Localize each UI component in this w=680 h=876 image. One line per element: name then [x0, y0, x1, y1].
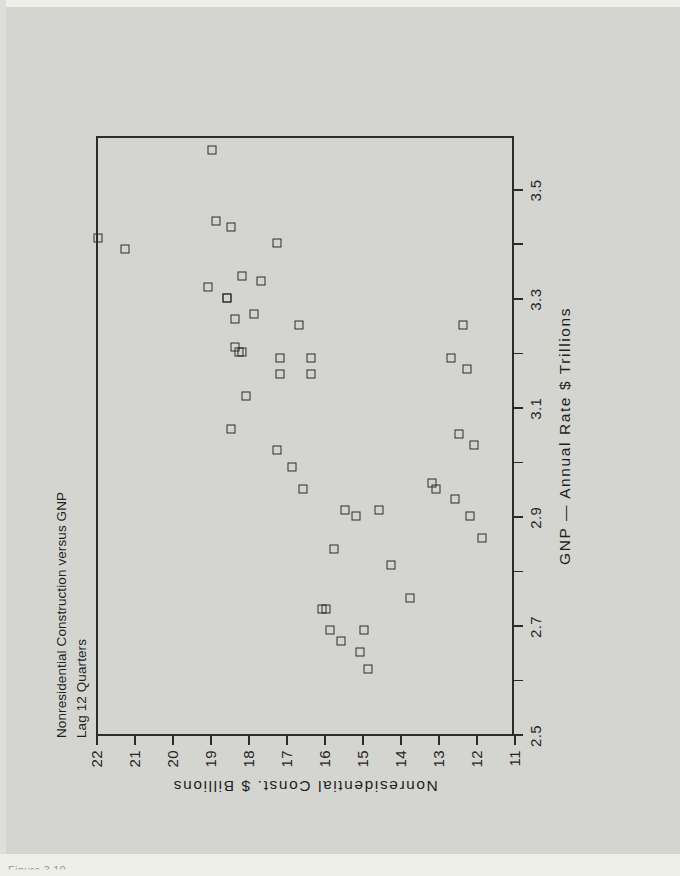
- x-tick: [514, 571, 523, 573]
- y-tick-label: 19: [202, 750, 219, 776]
- x-tick: [514, 244, 523, 246]
- data-point-marker: [249, 310, 258, 319]
- x-tick: [514, 462, 523, 464]
- data-point-marker: [466, 511, 475, 520]
- data-point-marker: [458, 320, 467, 329]
- data-point-marker: [470, 440, 479, 449]
- x-tick-label: 2.5: [527, 725, 544, 747]
- y-tick: [476, 736, 478, 745]
- scanned-figure-page: Nonresidential Construction versus GNP L…: [0, 0, 680, 876]
- x-tick: [514, 189, 523, 191]
- data-point-marker: [341, 506, 350, 515]
- data-point-marker: [230, 315, 239, 324]
- y-tick-label: 12: [468, 750, 485, 776]
- y-tick: [248, 736, 250, 745]
- x-tick: [514, 680, 523, 682]
- y-tick-label: 22: [88, 750, 105, 776]
- data-point-marker: [276, 353, 285, 362]
- x-tick-label: 3.3: [527, 289, 544, 311]
- data-point-marker: [455, 430, 464, 439]
- y-tick: [400, 736, 402, 745]
- chart-title: Nonresidential Construction versus GNP: [54, 492, 69, 738]
- y-tick-label: 20: [164, 750, 181, 776]
- data-point-marker: [432, 484, 441, 493]
- data-point-marker: [242, 391, 251, 400]
- data-point-marker: [287, 462, 296, 471]
- x-tick: [514, 298, 523, 300]
- data-point-marker: [257, 277, 266, 286]
- x-tick: [514, 625, 523, 627]
- x-tick-label: 3.5: [527, 180, 544, 202]
- data-point-marker: [363, 664, 372, 673]
- data-point-marker: [227, 222, 236, 231]
- data-point-marker: [120, 244, 129, 253]
- chart-subtitle: Lag 12 Quarters: [74, 639, 89, 738]
- x-tick: [514, 516, 523, 518]
- data-point-marker: [360, 626, 369, 635]
- data-point-marker: [375, 506, 384, 515]
- data-point-marker: [272, 446, 281, 455]
- data-point-marker: [211, 217, 220, 226]
- x-tick-label: 2.9: [527, 507, 544, 529]
- data-point-marker: [238, 271, 247, 280]
- data-point-marker: [208, 146, 217, 155]
- y-tick-label: 15: [354, 750, 371, 776]
- x-tick: [514, 407, 523, 409]
- y-tick-label: 21: [126, 750, 143, 776]
- x-axis-title: GNP — Annual Rate $ Trillions: [556, 136, 574, 736]
- data-point-marker: [295, 320, 304, 329]
- plot-area: [96, 136, 514, 736]
- data-point-marker: [238, 348, 247, 357]
- data-point-marker: [356, 648, 365, 657]
- y-tick-label: 11: [506, 750, 523, 776]
- data-point-marker: [223, 293, 232, 302]
- y-tick: [286, 736, 288, 745]
- x-tick: [514, 353, 523, 355]
- data-point-marker: [272, 239, 281, 248]
- data-point-marker: [477, 533, 486, 542]
- data-point-marker: [405, 593, 414, 602]
- rotated-chart-stage: Nonresidential Construction versus GNP L…: [60, 68, 620, 808]
- data-point-marker: [306, 353, 315, 362]
- x-tick-label: 2.7: [527, 616, 544, 638]
- y-tick: [172, 736, 174, 745]
- data-point-marker: [322, 604, 331, 613]
- data-point-marker: [352, 511, 361, 520]
- y-tick: [134, 736, 136, 745]
- data-point-marker: [386, 560, 395, 569]
- y-tick: [96, 736, 98, 745]
- data-point-marker: [299, 484, 308, 493]
- data-point-marker: [227, 424, 236, 433]
- data-point-marker: [451, 495, 460, 504]
- y-tick: [210, 736, 212, 745]
- y-tick-label: 17: [278, 750, 295, 776]
- y-axis-title: Nonresidential Const. $ Billions: [172, 777, 438, 795]
- data-point-marker: [325, 626, 334, 635]
- data-point-marker: [94, 233, 103, 242]
- y-tick: [514, 736, 516, 745]
- scatter-figure: Nonresidential Construction versus GNP L…: [0, 0, 680, 876]
- y-tick: [324, 736, 326, 745]
- y-tick-label: 14: [392, 750, 409, 776]
- y-tick: [438, 736, 440, 745]
- x-tick-label: 3.1: [527, 398, 544, 420]
- y-tick-label: 16: [316, 750, 333, 776]
- data-point-marker: [204, 282, 213, 291]
- data-point-marker: [276, 370, 285, 379]
- data-point-marker: [306, 370, 315, 379]
- data-point-marker: [447, 353, 456, 362]
- data-point-marker: [462, 364, 471, 373]
- y-tick-label: 18: [240, 750, 257, 776]
- data-point-marker: [337, 637, 346, 646]
- y-tick-label: 13: [430, 750, 447, 776]
- data-point-marker: [329, 544, 338, 553]
- y-tick: [362, 736, 364, 745]
